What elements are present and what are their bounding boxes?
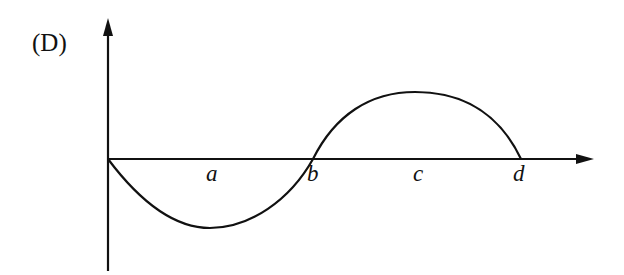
x-label-d: d [513,162,525,185]
x-axis-arrow-icon [576,154,594,164]
x-label-a: a [206,162,218,185]
x-label-c: c [413,162,423,185]
curve-positive-lobe [313,92,521,159]
panel-label: (D) [32,30,67,55]
graph-canvas [0,0,624,275]
graph-figure: (D) a b c d [0,0,624,275]
y-axis-arrow-icon [103,18,113,36]
x-label-b: b [307,162,319,185]
